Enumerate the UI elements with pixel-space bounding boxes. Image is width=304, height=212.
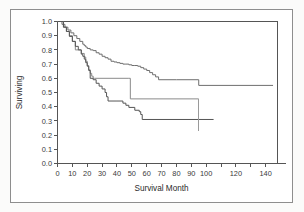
x-tick-label: 70 (157, 169, 165, 178)
figure-root: 0.00.10.20.30.40.50.60.70.80.91.00102030… (0, 0, 304, 212)
y-tick-label: 0.1 (42, 145, 52, 154)
x-tick-label: 90 (187, 169, 195, 178)
x-tick-label: 50 (128, 169, 136, 178)
x-tick-label: 100 (200, 169, 212, 178)
km-curve-middle-curve (58, 22, 199, 99)
y-tick-label: 0.5 (42, 88, 52, 97)
x-tick-label: 140 (259, 169, 271, 178)
x-tick-label: 20 (83, 169, 91, 178)
y-tick-label: 0.8 (42, 46, 52, 55)
plot-box (58, 22, 278, 164)
x-tick-label: 10 (68, 169, 76, 178)
y-tick-label: 0.2 (42, 131, 52, 140)
survival-chart: 0.00.10.20.30.40.50.60.70.80.91.00102030… (0, 0, 304, 212)
x-axis-title: Survival Month (134, 184, 189, 193)
y-tick-label: 0.9 (42, 31, 52, 40)
y-tick-label: 0.3 (42, 117, 52, 126)
x-tick-label: 0 (55, 169, 59, 178)
y-tick-label: 0.0 (42, 159, 52, 168)
x-tick-label: 60 (143, 169, 151, 178)
x-tick-label: 120 (230, 169, 242, 178)
y-tick-label: 1.0 (42, 17, 52, 26)
x-tick-label: 30 (98, 169, 106, 178)
y-tick-label: 0.7 (42, 60, 52, 69)
y-axis-title: Surviving (15, 75, 24, 109)
y-tick-label: 0.6 (42, 74, 52, 83)
y-tick-label: 0.4 (42, 102, 52, 111)
x-tick-label: 40 (113, 169, 121, 178)
x-tick-label: 80 (172, 169, 180, 178)
km-curve-lower-curve (58, 22, 214, 120)
